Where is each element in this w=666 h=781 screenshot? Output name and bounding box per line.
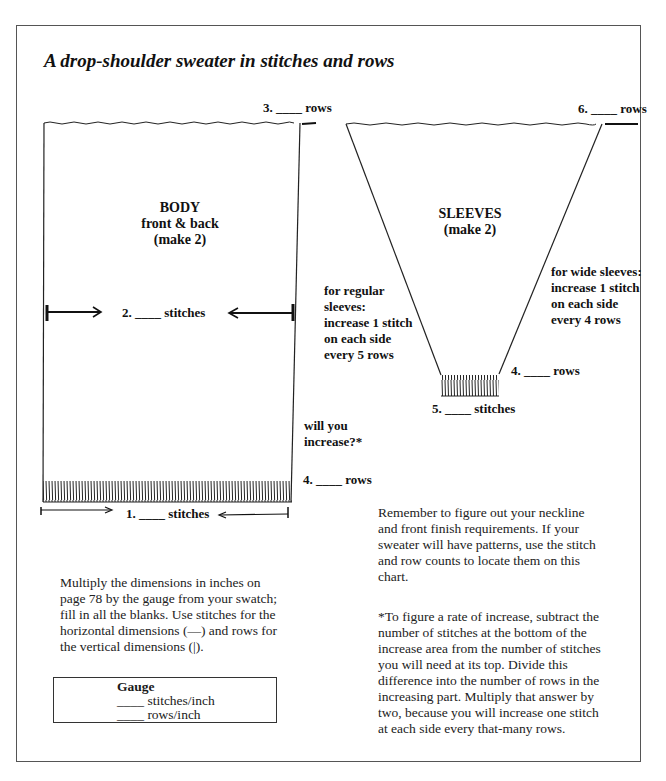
body-note: (make 2) bbox=[120, 232, 240, 248]
regular-sleeves-line: on each side bbox=[324, 331, 391, 347]
regular-sleeves-line: for regular bbox=[324, 283, 385, 299]
label-body-length-rows: 3. ____ rows bbox=[263, 100, 332, 116]
label-chest-stitches: 2. ____ stitches bbox=[122, 305, 205, 321]
regular-sleeves-line: every 5 rows bbox=[324, 347, 394, 363]
label-cuff-stitches: 5. ____ stitches bbox=[432, 401, 515, 417]
label-cuff-rows: 4. ____ rows bbox=[511, 363, 580, 379]
footnote-paragraph: *To figure a rate of increase, subtract … bbox=[378, 609, 601, 737]
wide-sleeves-line: increase 1 stitch bbox=[551, 280, 640, 296]
body-subtitle: front & back bbox=[120, 216, 240, 232]
sleeve-name: SLEEVES bbox=[420, 206, 520, 222]
instructions-paragraph: Multiply the dimensions in inches on pag… bbox=[60, 575, 277, 655]
label-sleeve-length-rows: 6. ____ rows bbox=[578, 101, 647, 117]
increase-question-1: will you bbox=[304, 418, 348, 434]
increase-question-2: increase?* bbox=[304, 434, 362, 450]
gauge-box: Gauge ____ stitches/inch ____ rows/inch bbox=[53, 677, 277, 723]
gauge-rows: ____ rows/inch bbox=[117, 707, 201, 723]
wide-sleeves-line: on each side bbox=[551, 296, 618, 312]
label-bottom-stitches: 1. ____ stitches bbox=[126, 506, 209, 522]
sleeve-note: (make 2) bbox=[420, 222, 520, 238]
reminder-paragraph: Remember to figure out your neckline and… bbox=[378, 505, 596, 585]
body-name: BODY bbox=[120, 200, 240, 216]
wide-sleeves-line: every 4 rows bbox=[551, 312, 621, 328]
regular-sleeves-line: sleeves: bbox=[324, 299, 366, 315]
wide-sleeves-line: for wide sleeves: bbox=[551, 264, 642, 280]
regular-sleeves-line: increase 1 stitch bbox=[324, 315, 413, 331]
label-body-ribbing-rows: 4. ____ rows bbox=[303, 472, 372, 488]
